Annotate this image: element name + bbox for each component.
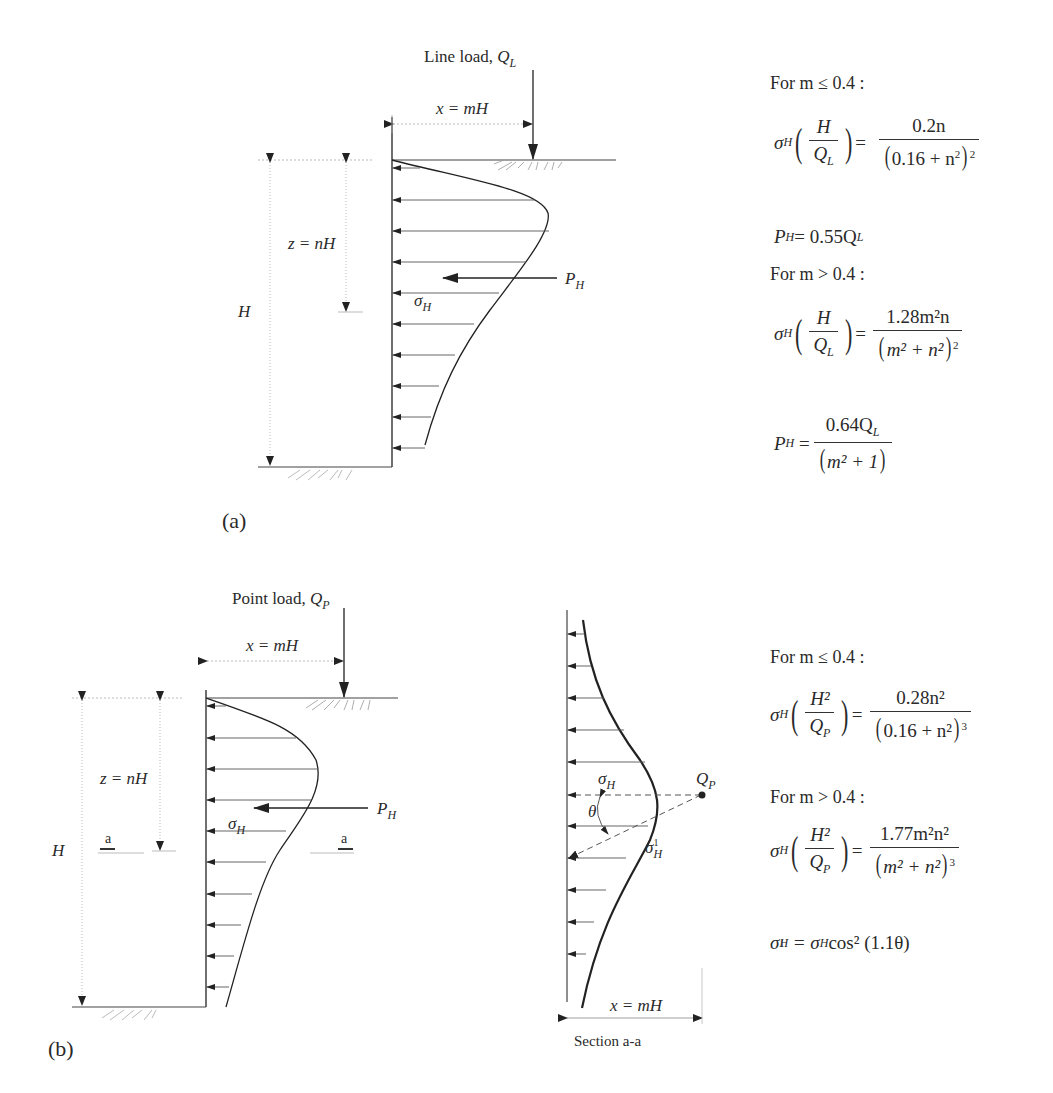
eq-b-1: σH ( H²QP ) = 0.28n²(0.16 + n²)3	[770, 687, 979, 742]
x-dim-label-b: x = mH	[246, 637, 298, 654]
panel-a-diagram	[258, 70, 616, 480]
panel-b-tag: (b)	[48, 1036, 74, 1062]
point-load-label: Point load, QP	[232, 590, 330, 611]
eq-a-3: σH ( HQL ) = 1.28m²n(m² + n²)2	[774, 306, 970, 361]
section-title: Section a-a	[574, 1034, 641, 1049]
PH-label-b: PH	[377, 800, 396, 821]
point-load-dot	[699, 792, 706, 799]
eq-a-2: PH = 0.55QL	[774, 226, 863, 248]
z-dim-label-b: z = nH	[100, 770, 147, 787]
eq-a-1: σH ( HQL ) = 0.2n(0.16 + n2)2	[774, 115, 992, 170]
eq-a-cond1: For m ≤ 0.4 :	[770, 73, 864, 94]
eq-b-cond1: For m ≤ 0.4 :	[770, 647, 864, 668]
PH-label-a: PH	[565, 270, 584, 291]
soil-hatch-top	[494, 160, 562, 170]
section-sigmaH1-label: σ1H	[645, 838, 662, 860]
z-dim-label-a: z = nH	[288, 235, 335, 252]
soil-hatch-base	[288, 470, 352, 480]
H-label-b: H	[52, 842, 64, 859]
line-load-label: Line load, QL	[424, 48, 516, 69]
eq-a-4: PH = 0.64QL(m² + 1)	[774, 414, 896, 473]
sigmaH-label-b: σH	[228, 815, 245, 836]
eq-b-cond2: For m > 0.4 :	[770, 787, 865, 808]
eq-a-cond2: For m > 0.4 :	[770, 264, 865, 285]
eq-b-3: σ1H = σH cos² (1.1θ)	[770, 932, 910, 954]
sigmaH-label-a: σH	[414, 292, 431, 313]
panel-a-tag: (a)	[222, 508, 246, 534]
section-x-dim-label: x = mH	[610, 997, 662, 1014]
section-sigmaH-label: σH	[598, 770, 615, 791]
section-marker-right: a	[341, 832, 347, 846]
section-marker-left: a	[105, 832, 111, 846]
section-QP-label: QP	[696, 770, 716, 791]
eq-b-2: σH ( H²QP ) = 1.77m²n²(m² + n²)3	[770, 823, 967, 878]
H-label-a: H	[238, 303, 250, 320]
x-dim-label-a: x = mH	[436, 100, 488, 117]
theta-label: θ	[588, 803, 596, 820]
